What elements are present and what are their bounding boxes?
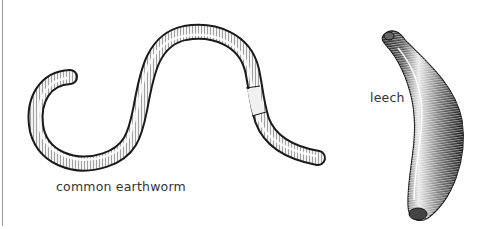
earthworm-drawing (36, 32, 318, 164)
annelid-illustration (0, 0, 491, 229)
leech-label: leech (370, 90, 405, 105)
leech-drawing (382, 31, 463, 221)
earthworm-label: common earthworm (56, 179, 186, 194)
